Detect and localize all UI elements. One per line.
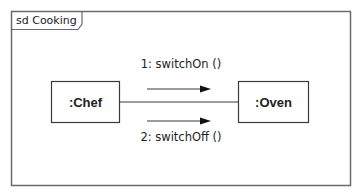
object-chef-label: :Chef xyxy=(69,95,103,110)
message-1-label: 1: switchOn () xyxy=(141,57,222,71)
object-oven[interactable]: :Oven xyxy=(239,82,309,123)
communication-diagram: sd Cooking :Chef :Oven 1: switchOn () 2:… xyxy=(0,0,364,194)
frame-label: sd Cooking xyxy=(16,14,77,27)
object-oven-label: :Oven xyxy=(255,95,292,110)
message-2[interactable]: 2: switchOff () xyxy=(140,118,221,145)
message-2-label: 2: switchOff () xyxy=(140,130,221,144)
message-1-arrowhead-icon xyxy=(200,86,211,93)
message-2-arrowhead-icon xyxy=(200,118,211,125)
message-1[interactable]: 1: switchOn () xyxy=(141,57,222,93)
object-chef[interactable]: :Chef xyxy=(52,82,120,123)
